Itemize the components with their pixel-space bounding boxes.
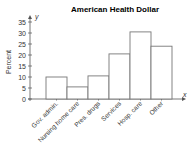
bars [46, 32, 172, 99]
y-tick-label: 35 [18, 19, 26, 26]
category-label: Other [148, 99, 165, 116]
x-axis-letter: x [182, 91, 187, 98]
y-axis-letter: y [34, 13, 39, 21]
y-tick-label: 0 [22, 96, 26, 103]
bar [151, 46, 172, 99]
bar [46, 77, 67, 99]
bar [88, 76, 109, 99]
y-tick-label: 15 [18, 63, 26, 70]
y-tick-label: 5 [22, 85, 26, 92]
bar-chart: American Health Dollar 05101520253035 Go… [0, 0, 190, 156]
bar [67, 87, 88, 99]
y-tick-label: 20 [18, 52, 26, 59]
y-tick-label: 10 [18, 74, 26, 81]
bar [130, 32, 151, 99]
y-tick-label: 25 [18, 41, 26, 48]
category-labels: Gov. admin.Nursing home carePres. drugsS… [30, 99, 165, 144]
y-tick-label: 30 [18, 30, 26, 37]
bar [109, 54, 130, 99]
y-axis-label: Percent [5, 50, 12, 74]
chart-title: American Health Dollar [71, 5, 159, 14]
